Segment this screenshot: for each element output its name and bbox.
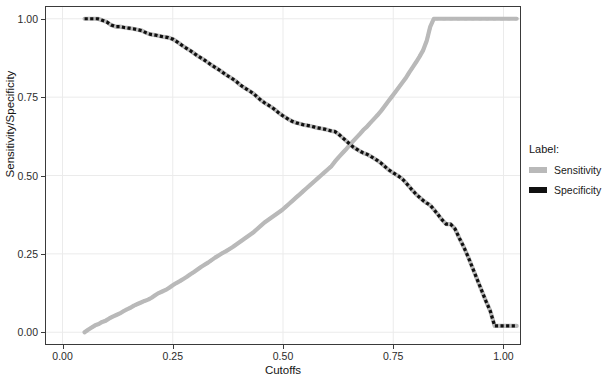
y-tick-label: 0.25 bbox=[2, 249, 38, 260]
legend-swatch-specificity bbox=[529, 187, 547, 193]
legend-label-specificity: Specificity bbox=[554, 184, 601, 196]
legend-swatch-sensitivity bbox=[529, 167, 547, 173]
x-axis-title: Cutoffs bbox=[45, 364, 521, 376]
legend-label-sensitivity: Sensitivity bbox=[554, 164, 601, 176]
plot-canvas bbox=[46, 7, 520, 344]
x-tick-mark bbox=[283, 345, 284, 349]
x-tick-label: 0.75 bbox=[363, 351, 423, 362]
plot-panel bbox=[45, 6, 521, 345]
x-tick-label: 0.00 bbox=[33, 351, 93, 362]
x-tick-mark bbox=[63, 345, 64, 349]
x-tick-mark bbox=[173, 345, 174, 349]
gridlines bbox=[46, 7, 520, 344]
legend-item-specificity[interactable]: Specificity bbox=[529, 184, 609, 196]
y-tick-label: 0.00 bbox=[2, 327, 38, 338]
y-axis-title: Sensitivity/Specificity bbox=[4, 64, 16, 184]
y-tick-mark bbox=[41, 176, 45, 177]
legend: Label: Sensitivity Specificity bbox=[529, 143, 609, 204]
x-tick-label: 0.50 bbox=[253, 351, 313, 362]
y-tick-mark bbox=[41, 97, 45, 98]
chart-figure: 0.000.250.500.751.00 0.000.250.500.751.0… bbox=[0, 0, 610, 384]
legend-title: Label: bbox=[529, 143, 609, 155]
x-tick-mark bbox=[503, 345, 504, 349]
y-tick-mark bbox=[41, 254, 45, 255]
series-line-specificity bbox=[85, 19, 517, 326]
series-band-specificity bbox=[85, 19, 517, 326]
x-tick-label: 0.25 bbox=[143, 351, 203, 362]
x-tick-label: 1.00 bbox=[473, 351, 533, 362]
y-tick-mark bbox=[41, 332, 45, 333]
legend-item-sensitivity[interactable]: Sensitivity bbox=[529, 164, 609, 176]
x-tick-mark bbox=[393, 345, 394, 349]
y-tick-label: 1.00 bbox=[2, 14, 38, 25]
y-tick-mark bbox=[41, 19, 45, 20]
